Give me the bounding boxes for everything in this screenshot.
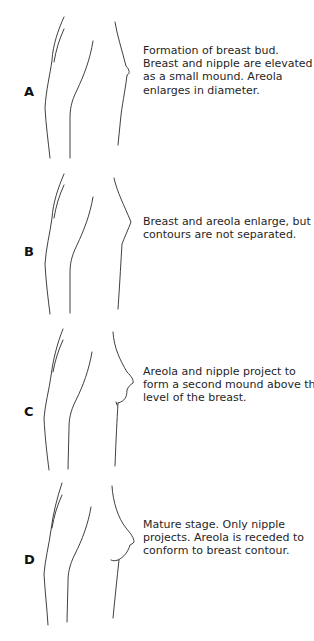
stage-label: C [24, 404, 34, 419]
description-line: Breast and nipple are elevated [143, 57, 313, 70]
description-line: Formation of breast bud. [143, 44, 313, 57]
stage-description: Formation of breast bud. Breast and nipp… [143, 44, 313, 97]
description-line: level of the breast. [143, 391, 314, 404]
description-line: as a small mound. Areola [143, 70, 313, 83]
description-line: form a second mound above the [143, 378, 314, 391]
description-line: Areola and nipple project to [143, 365, 314, 378]
stage-c-panel: C Areola and nipple project to form a se… [0, 320, 314, 480]
description-line: contours are not separated. [143, 228, 311, 241]
stage-d-panel: D Mature stage. Only nipple projects. Ar… [0, 480, 314, 640]
description-line: projects. Areola is receded to [143, 531, 304, 544]
stage-b-panel: B Breast and areola enlarge, but contour… [0, 160, 314, 320]
stage-a-panel: A Formation of breast bud. Breast and ni… [0, 0, 314, 160]
stage-d-profile-drawing [0, 480, 140, 640]
description-line: enlarges in diameter. [143, 84, 313, 97]
stage-description: Areola and nipple project to form a seco… [143, 365, 314, 405]
stage-b-profile-drawing [0, 160, 140, 320]
body-profile-icon [0, 480, 140, 640]
stage-label: B [24, 244, 34, 259]
body-profile-icon [0, 0, 140, 160]
body-profile-icon [0, 160, 140, 320]
stage-a-profile-drawing [0, 0, 140, 160]
body-profile-icon [0, 320, 140, 480]
description-line: Breast and areola enlarge, but [143, 215, 311, 228]
stage-label: A [24, 84, 34, 99]
description-line: Mature stage. Only nipple [143, 518, 304, 531]
stage-description: Mature stage. Only nipple projects. Areo… [143, 518, 304, 558]
stage-label: D [24, 552, 35, 567]
description-line: conform to breast contour. [143, 544, 304, 557]
stage-description: Breast and areola enlarge, but contours … [143, 215, 311, 241]
stage-c-profile-drawing [0, 320, 140, 480]
